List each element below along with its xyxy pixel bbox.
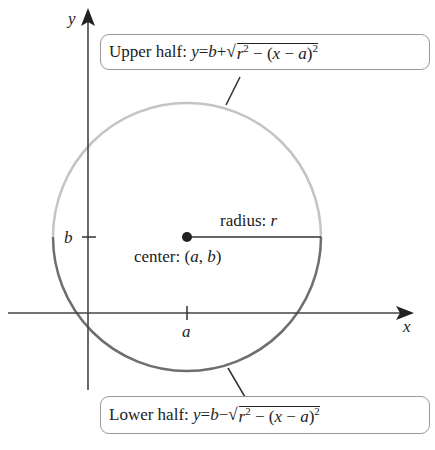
upper-leader-line xyxy=(226,77,240,105)
eq-y: y xyxy=(191,42,199,62)
x-tick-label: a xyxy=(182,323,191,340)
center-a: a xyxy=(190,247,199,266)
radius-prefix: radius: xyxy=(220,211,271,230)
sqrt-icon: √ xyxy=(226,42,235,62)
radius-label: radius: r xyxy=(220,212,277,229)
upper-label: Upper half: xyxy=(109,42,187,62)
y-axis-label: y xyxy=(68,10,76,27)
eq-minus2: − xyxy=(280,44,298,63)
exp: 2 xyxy=(314,405,320,417)
eq-minus2: − xyxy=(282,407,300,426)
sqrt-radicand: r2 − (x − a)2 xyxy=(237,43,318,62)
eq-op: − xyxy=(219,405,229,425)
exp: 2 xyxy=(312,42,318,54)
eq-a: a xyxy=(300,407,309,426)
center-b: b xyxy=(207,247,216,266)
eq-minus: − ( xyxy=(249,44,273,63)
radius-var: r xyxy=(271,211,278,230)
lower-leader-line xyxy=(228,368,245,397)
upper-half-equation-box: Upper half: y = b + √r2 − (x − a)2 xyxy=(100,34,430,70)
eq-sign: = xyxy=(201,405,211,425)
eq-a: a xyxy=(298,44,307,63)
y-tick-label: b xyxy=(64,229,73,246)
center-prefix: center: xyxy=(134,247,185,266)
eq-y: y xyxy=(193,405,201,425)
lower-label: Lower half: xyxy=(109,405,189,425)
eq-x: x xyxy=(274,407,282,426)
center-label: center: (a, b) xyxy=(134,248,221,265)
lower-half-equation-box: Lower half: y = b − √r2 − (x − a)2 xyxy=(100,396,430,434)
center-point xyxy=(182,232,192,242)
eq-x: x xyxy=(273,44,281,63)
eq-sign: = xyxy=(199,42,209,62)
upper-semicircle xyxy=(53,103,321,237)
x-axis-label: x xyxy=(403,318,411,335)
eq-minus: − ( xyxy=(251,407,275,426)
sqrt-icon: √ xyxy=(228,405,237,425)
eq-op: + xyxy=(217,42,227,62)
eq-b: b xyxy=(210,405,219,425)
eq-b: b xyxy=(208,42,217,62)
sqrt-radicand: r2 − (x − a)2 xyxy=(239,406,320,425)
